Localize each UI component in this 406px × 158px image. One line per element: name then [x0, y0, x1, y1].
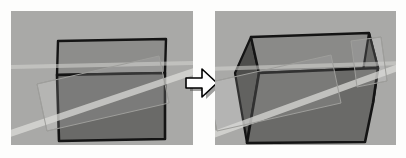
panel-after [215, 11, 396, 145]
tilted-ghost-rectangle-right-outline [351, 37, 387, 87]
after-illustration [215, 11, 396, 145]
before-illustration [11, 11, 193, 145]
panel-before [11, 11, 193, 145]
figure-root [0, 0, 406, 158]
